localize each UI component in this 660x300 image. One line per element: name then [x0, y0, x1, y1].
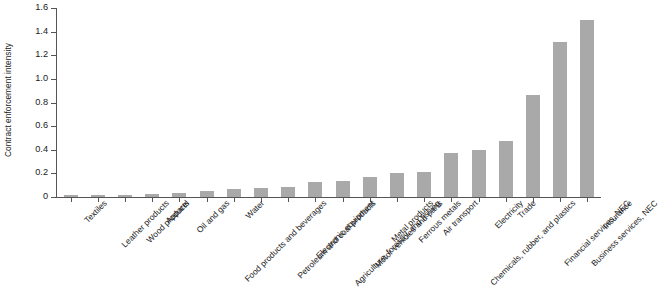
- y-axis-tick-label: 0: [43, 190, 48, 203]
- y-axis-tick-label: 0.8: [35, 96, 48, 109]
- bar: [172, 193, 186, 197]
- bar: [200, 191, 214, 197]
- bar: [118, 195, 132, 197]
- y-axis-tick: 0.8: [51, 103, 56, 104]
- bar: [390, 173, 404, 197]
- y-axis-tick: 1.6: [51, 8, 56, 9]
- y-axis-tick-label: 1.0: [35, 72, 48, 85]
- y-axis-tick-label: 1.4: [35, 25, 48, 38]
- y-axis-tick: 0.2: [51, 173, 56, 174]
- bar: [526, 95, 540, 197]
- y-axis-tick-label: 0.2: [35, 166, 48, 179]
- y-axis-tick: 1.2: [51, 55, 56, 56]
- y-axis-tick-label: 1.2: [35, 48, 48, 61]
- bar: [254, 188, 268, 197]
- y-axis-tick: 0: [51, 197, 56, 198]
- y-axis-title-text: Contract enforcement intensity: [3, 43, 13, 157]
- bar: [64, 195, 78, 197]
- x-axis-tick-label: Textiles: [82, 198, 109, 225]
- x-axis-labels: TextilesLeather productsWood productsApp…: [57, 198, 601, 298]
- y-axis-tick-label: 0.4: [35, 143, 48, 156]
- bar: [363, 177, 377, 197]
- x-axis-tick-label: Oil and gas: [195, 198, 232, 235]
- bar: [145, 194, 159, 197]
- plot-area: 00.20.40.60.81.01.21.41.6: [56, 8, 601, 197]
- bar: [281, 187, 295, 197]
- y-axis-tick: 1.4: [51, 32, 56, 33]
- bar: [472, 150, 486, 197]
- bar: [553, 42, 567, 197]
- y-axis-tick: 1.0: [51, 79, 56, 80]
- bar: [336, 181, 350, 197]
- x-axis-tick-label: Chemicals, rubber, and plastics: [488, 198, 577, 287]
- y-axis-tick: 0.4: [51, 150, 56, 151]
- bar: [444, 153, 458, 197]
- x-axis-tick-label: Water: [243, 198, 266, 221]
- bar: [580, 20, 594, 197]
- bar: [227, 189, 241, 197]
- bar: [499, 141, 513, 197]
- y-axis-tick: 0.6: [51, 126, 56, 127]
- bar: [91, 195, 105, 197]
- bar: [308, 182, 322, 197]
- y-axis-tick-label: 1.6: [35, 1, 48, 14]
- y-axis-title: Contract enforcement intensity: [0, 0, 16, 200]
- y-axis-tick-label: 0.6: [35, 119, 48, 132]
- bar-series: [57, 8, 601, 197]
- bar: [417, 172, 431, 197]
